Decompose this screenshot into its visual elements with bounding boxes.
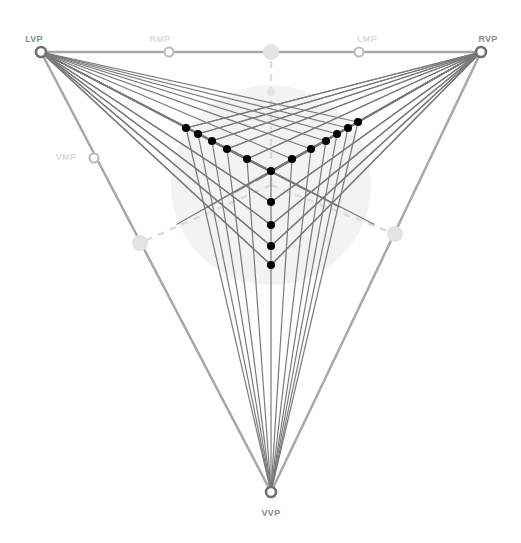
disc-right-center bbox=[387, 226, 403, 242]
lvp-ring bbox=[36, 47, 46, 57]
label-vvp: VVP bbox=[262, 508, 281, 518]
disc-top-center bbox=[263, 44, 279, 60]
grid-dot bbox=[208, 137, 216, 145]
ray-lvp-top-6 bbox=[41, 52, 358, 122]
vvp-ring bbox=[266, 487, 276, 497]
grid-dot bbox=[322, 137, 330, 145]
label-rvp: RVP bbox=[478, 34, 497, 44]
label-vmp: VMP bbox=[56, 152, 76, 162]
label-lmp: LMP bbox=[357, 34, 377, 44]
rvp-ring bbox=[476, 47, 486, 57]
label-lvp: LVP bbox=[25, 34, 43, 44]
vmp-ring bbox=[90, 154, 99, 163]
grid-dot bbox=[267, 242, 275, 250]
grid-dot bbox=[288, 155, 296, 163]
label-rmp: RMP bbox=[150, 34, 171, 44]
grid-dot bbox=[344, 124, 352, 132]
grid-dot bbox=[223, 145, 231, 153]
grid-dot bbox=[267, 198, 275, 206]
grid-dot bbox=[354, 118, 362, 126]
grid-dot bbox=[307, 145, 315, 153]
grid-dot bbox=[267, 261, 275, 269]
perspective-diagram bbox=[0, 0, 521, 543]
disc-left-center bbox=[132, 235, 148, 251]
grid-dot bbox=[182, 124, 190, 132]
grid-dot bbox=[194, 130, 202, 138]
rmp-ring bbox=[165, 48, 174, 57]
grid-dot bbox=[243, 155, 251, 163]
disc-station-point bbox=[267, 88, 275, 96]
lmp-ring bbox=[355, 48, 364, 57]
grid-dot bbox=[267, 221, 275, 229]
grid-dot bbox=[267, 167, 275, 175]
grid-dot bbox=[333, 130, 341, 138]
